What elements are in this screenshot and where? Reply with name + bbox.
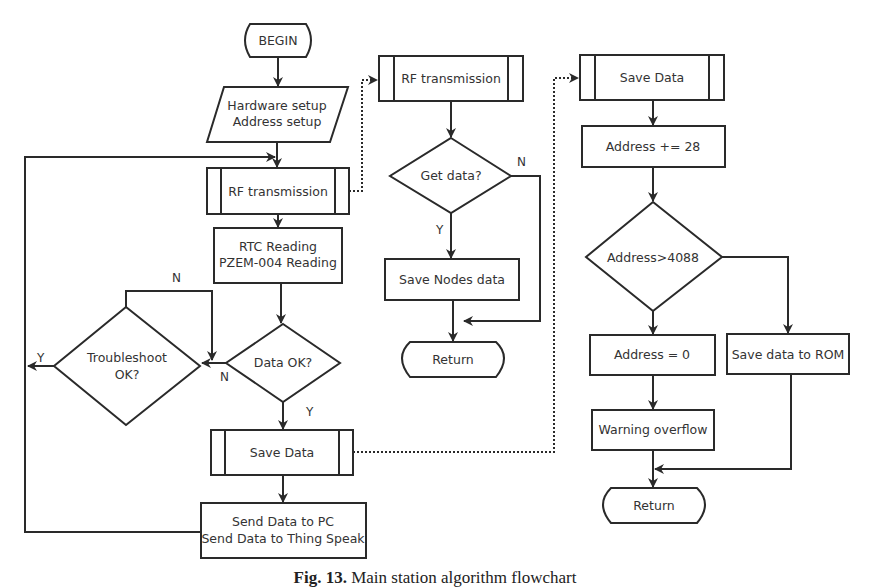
address-check-label: Address>4088	[607, 250, 699, 265]
rf-subroutine-header: RF transmission	[379, 56, 523, 101]
caption-text: Main station algorithm flowchart	[351, 568, 576, 587]
send-label-line2: Send Data to Thing Speak	[201, 531, 365, 546]
troubleshoot-no-label: N	[172, 271, 181, 285]
data-ok-decision: Data OK?	[226, 324, 340, 402]
figure-caption: Fig. 13. Main station algorithm flowchar…	[0, 568, 870, 587]
data-ok-no-label: N	[220, 370, 229, 384]
warning-overflow-label: Warning overflow	[599, 422, 708, 437]
troubleshoot-decision: Troubleshoot OK?	[54, 307, 200, 425]
save-nodes-label: Save Nodes data	[399, 272, 505, 287]
reading-process: RTC Reading PZEM-004 Reading	[214, 228, 342, 283]
get-data-label: Get data?	[420, 168, 481, 183]
rf-subroutine-title: RF transmission	[401, 71, 501, 86]
save-nodes-process: Save Nodes data	[385, 259, 519, 300]
rf-return-terminal: Return	[402, 342, 504, 377]
get-data-no-label: N	[517, 155, 526, 169]
rf-transmission-label: RF transmission	[228, 184, 328, 199]
reading-label-line1: RTC Reading	[239, 239, 317, 254]
save-subroutine-header: Save Data	[580, 55, 724, 100]
setup-label-line2: Address setup	[233, 114, 322, 129]
setup-io-node: Hardware setup Address setup	[207, 87, 348, 142]
dotted-link-rf-subroutine	[349, 80, 377, 191]
save-return-label: Return	[633, 498, 674, 513]
data-ok-label: Data OK?	[254, 355, 313, 370]
data-ok-yes-label: Y	[305, 405, 314, 419]
address-increment-process: Address += 28	[582, 126, 725, 167]
send-label-line1: Send Data to PC	[232, 514, 334, 529]
rf-return-label: Return	[432, 352, 473, 367]
arrow-check-to-rom	[722, 257, 788, 333]
caption-prefix: Fig. 13.	[294, 568, 347, 587]
address-increment-label: Address += 28	[606, 139, 701, 154]
troubleshoot-label-line1: Troubleshoot	[86, 350, 167, 365]
save-rom-label: Save data to ROM	[732, 347, 845, 362]
save-return-terminal: Return	[603, 488, 705, 523]
flowchart-canvas: BEGIN Hardware setup Address setup RF tr…	[0, 0, 870, 587]
get-data-yes-label: Y	[435, 223, 444, 237]
begin-terminal: BEGIN	[245, 24, 311, 57]
get-data-decision: Get data?	[390, 138, 511, 213]
setup-label-line1: Hardware setup	[227, 98, 326, 113]
troubleshoot-yes-label: Y	[36, 351, 45, 365]
save-rom-process: Save data to ROM	[727, 334, 849, 374]
address-check-decision: Address>4088	[586, 202, 722, 311]
address-reset-process: Address = 0	[590, 335, 715, 375]
begin-label: BEGIN	[258, 33, 297, 48]
address-reset-label: Address = 0	[614, 347, 690, 362]
send-data-process: Send Data to PC Send Data to Thing Speak	[201, 503, 366, 558]
reading-label-line2: PZEM-004 Reading	[219, 255, 337, 270]
save-data-process: Save Data	[211, 430, 353, 475]
troubleshoot-label-line2: OK?	[115, 367, 140, 382]
save-data-label: Save Data	[250, 445, 315, 460]
save-subroutine-title: Save Data	[620, 70, 685, 85]
warning-overflow-process: Warning overflow	[592, 410, 714, 450]
rf-transmission-process: RF transmission	[207, 168, 349, 214]
